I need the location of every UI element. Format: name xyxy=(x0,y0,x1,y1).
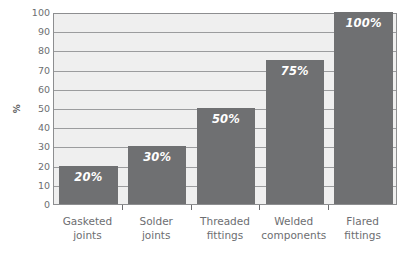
y-axis-tick-label: 80 xyxy=(18,47,50,57)
x-axis-category-label: Weldedcomponents xyxy=(259,214,328,242)
category-label-line-2: joints xyxy=(122,228,191,242)
x-axis-category-label: Threadedfittings xyxy=(191,214,260,242)
category-label-line-1: Threaded xyxy=(200,215,250,227)
x-axis-category-labels: GasketedjointsSolderjointsThreadedfittin… xyxy=(53,214,397,254)
y-axis-tick-label: 30 xyxy=(18,143,50,153)
category-label-line-2: fittings xyxy=(328,228,397,242)
bar-value-label: 100% xyxy=(334,16,392,30)
category-label-line-2: components xyxy=(259,228,328,242)
y-axis-tick-label: 50 xyxy=(18,104,50,114)
x-axis-tick-mark xyxy=(259,205,260,210)
bar: 30% xyxy=(128,146,186,204)
bar: 100% xyxy=(334,12,392,204)
category-label-line-2: joints xyxy=(53,228,122,242)
bar: 75% xyxy=(266,60,324,204)
category-label-line-1: Gasketed xyxy=(63,215,112,227)
x-axis-category-label: Flaredfittings xyxy=(328,214,397,242)
y-axis-tick-label: 60 xyxy=(18,85,50,95)
y-axis-tick-label: 100 xyxy=(18,8,50,18)
bars-layer: 20%30%50%75%100% xyxy=(54,14,396,204)
bar-value-label: 75% xyxy=(266,64,324,78)
y-axis-tick-label: 0 xyxy=(18,200,50,210)
y-axis-tick-label: 40 xyxy=(18,123,50,133)
bar-value-label: 50% xyxy=(197,112,255,126)
category-label-line-2: fittings xyxy=(191,228,260,242)
bar-value-label: 30% xyxy=(128,150,186,164)
y-axis-tick-label: 90 xyxy=(18,27,50,37)
x-axis-tick-mark xyxy=(328,205,329,210)
x-axis-category-label: Gasketedjoints xyxy=(53,214,122,242)
y-axis-tick-labels: 0102030405060708090100 xyxy=(18,13,50,205)
category-label-line-1: Flared xyxy=(346,215,379,227)
category-label-line-1: Welded xyxy=(274,215,313,227)
bar-value-label: 20% xyxy=(59,170,117,184)
y-axis-tick-label: 10 xyxy=(18,181,50,191)
x-axis-tick-mark xyxy=(122,205,123,210)
bar-chart: % 0102030405060708090100 20%30%50%75%100… xyxy=(0,0,413,256)
y-axis-tick-label: 70 xyxy=(18,66,50,76)
category-label-line-1: Solder xyxy=(139,215,172,227)
bar: 50% xyxy=(197,108,255,204)
bar: 20% xyxy=(59,166,117,204)
y-axis-tick-label: 20 xyxy=(18,162,50,172)
x-axis-category-label: Solderjoints xyxy=(122,214,191,242)
x-axis-tick-mark xyxy=(191,205,192,210)
plot-area: 20%30%50%75%100% xyxy=(53,13,397,205)
